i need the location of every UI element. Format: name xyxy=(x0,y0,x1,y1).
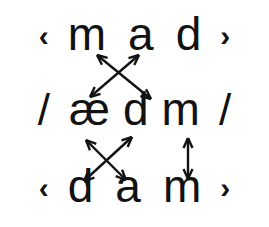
arrow-a-to-d-phonemic-head-end xyxy=(128,137,132,147)
orthographic-row-mad: ‹ m a d › xyxy=(0,8,269,66)
arrow-ae-to-d-lower-head-start xyxy=(86,140,90,150)
letter-bottom-2: a xyxy=(115,160,141,212)
arrow-a-to-d-phonemic-head-end xyxy=(122,137,132,140)
orthographic-row-dam: ‹ d a m › xyxy=(0,160,269,218)
arrow-ae-to-d-lower-head-start xyxy=(86,140,96,144)
close-slash: / xyxy=(219,84,231,136)
arrow-m-to-m-vertical-head-start xyxy=(184,138,188,148)
open-slash: / xyxy=(38,84,50,136)
phoneme-2: d xyxy=(123,83,149,135)
phoneme-3: m xyxy=(162,83,200,135)
open-angle-bracket-top: ‹ xyxy=(39,10,49,62)
letter-top-3: d xyxy=(176,8,202,60)
letter-top-1: m xyxy=(68,8,106,60)
phoneme-1: æ xyxy=(69,83,110,135)
phonemic-row-aedm: / æ d m / xyxy=(0,83,269,136)
open-angle-bracket-bottom: ‹ xyxy=(39,162,49,214)
letter-bottom-3: m xyxy=(163,160,201,212)
close-angle-bracket-bottom: › xyxy=(220,162,230,214)
arrow-m-to-m-vertical-head-start xyxy=(188,138,192,148)
metathesis-correspondence-figure: ‹ m a d › / æ d m / ‹ d a m › xyxy=(0,0,269,227)
close-angle-bracket-top: › xyxy=(220,10,230,62)
letter-top-2: a xyxy=(128,8,154,60)
letter-bottom-1: d xyxy=(68,160,94,212)
